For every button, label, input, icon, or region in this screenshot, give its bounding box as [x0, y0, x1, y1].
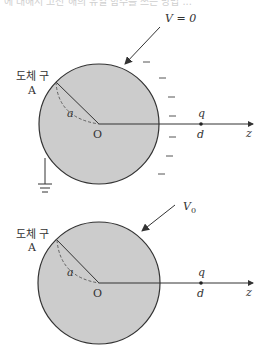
origin-label: O: [93, 287, 102, 300]
distance-label: d: [197, 287, 204, 300]
bottom-diagram: V0 도체 구 A a O q d z: [16, 200, 253, 344]
sphere-letter: A: [27, 241, 37, 254]
potential-arrow: [142, 205, 175, 231]
point-charge: [199, 122, 203, 126]
charge-label: q: [198, 266, 205, 279]
radius-label: a: [67, 107, 74, 120]
sphere-letter: A: [27, 84, 37, 97]
point-charge: [199, 281, 203, 285]
ground-icon: [38, 158, 52, 192]
potential-label: V0: [183, 200, 196, 215]
diagram-canvas: V = 0 도체 구 A a O q d z V0 도체 구 A a O q d…: [0, 0, 268, 355]
top-diagram: V = 0 도체 구 A a O q d z: [16, 12, 253, 192]
sphere-label: 도체 구: [16, 70, 50, 83]
potential-label: V = 0: [165, 12, 196, 25]
radius-label: a: [67, 266, 74, 279]
origin-label: O: [93, 128, 102, 141]
distance-label: d: [197, 128, 204, 141]
axis-label: z: [245, 127, 252, 140]
sphere-label: 도체 구: [16, 228, 50, 241]
charge-label: q: [198, 107, 205, 120]
axis-label: z: [245, 286, 252, 299]
potential-arrow: [125, 27, 160, 64]
